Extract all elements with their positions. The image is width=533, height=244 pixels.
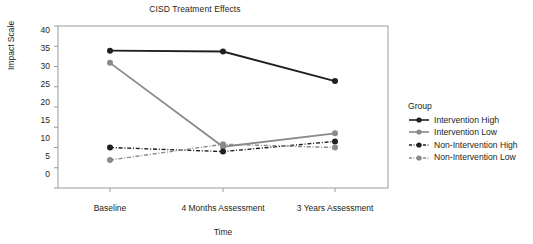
data-point	[220, 141, 226, 147]
data-series-group	[107, 48, 338, 163]
legend-label: Intervention High	[434, 114, 499, 127]
legend-item-intervention-low[interactable]: Intervention Low	[408, 126, 518, 139]
legend-key-solid-gray-icon	[408, 127, 430, 137]
legend-key-dashdot-black-icon	[408, 140, 430, 150]
chart-container: CISD Treatment Effects Impact Scale 40 3…	[0, 0, 533, 244]
data-point	[332, 130, 338, 136]
data-point	[332, 145, 338, 151]
data-point	[107, 157, 113, 163]
legend: Group Intervention High Intervention Low…	[408, 100, 518, 164]
legend-label: Non-Intervention Low	[434, 151, 516, 164]
data-point	[220, 49, 226, 55]
legend-label: Intervention Low	[434, 126, 497, 139]
series-line	[110, 51, 335, 81]
series-line	[110, 63, 335, 147]
legend-label: Non-Intervention High	[434, 139, 518, 152]
legend-title: Group	[408, 100, 518, 113]
legend-item-non-intervention-low[interactable]: Non-Intervention Low	[408, 151, 518, 164]
legend-item-non-intervention-high[interactable]: Non-Intervention High	[408, 139, 518, 152]
legend-key-solid-black-icon	[408, 115, 430, 125]
legend-item-intervention-high[interactable]: Intervention High	[408, 114, 518, 127]
data-point	[107, 145, 113, 151]
data-point	[107, 48, 113, 54]
data-point	[332, 78, 338, 84]
series-intervention-high	[107, 48, 338, 84]
data-point	[107, 60, 113, 66]
data-point	[220, 149, 226, 155]
legend-key-dashdot-gray-icon	[408, 153, 430, 163]
data-point	[332, 138, 338, 144]
